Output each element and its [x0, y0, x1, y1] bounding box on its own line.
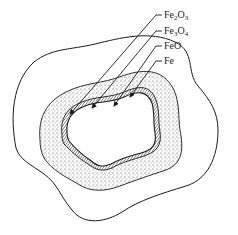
label-fe3o4: Fe3O4 — [164, 25, 189, 38]
label-feo: FeO — [164, 40, 181, 51]
oxide-layer-diagram: Fe2O3 Fe3O4 FeO Fe — [0, 0, 238, 235]
label-fe2o3: Fe2O3 — [164, 9, 189, 22]
label-fe: Fe — [164, 55, 175, 66]
